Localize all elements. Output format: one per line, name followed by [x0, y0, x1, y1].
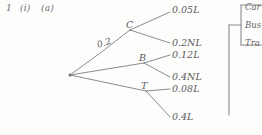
- edge-root-to-B: [70, 63, 144, 75]
- menu-item-bus: Bus: [245, 20, 261, 30]
- menu-item-car: Car: [245, 2, 261, 12]
- leaf-label-1: 0.05L: [172, 4, 199, 15]
- edge-C-to-leaf-2: [130, 30, 170, 43]
- edge-root-to-C: [70, 30, 130, 75]
- edge-B-to-leaf-1: [144, 55, 170, 63]
- leaf-label-6: 0.4L: [172, 111, 193, 122]
- leaf-label-4: 0.4NL: [172, 71, 202, 82]
- tree-node-label-B: B: [139, 52, 146, 63]
- leaf-label-5: 0.08L: [172, 83, 199, 94]
- tree-node-label-C: C: [126, 19, 133, 30]
- menu-item-train: Tra: [245, 38, 260, 48]
- leaf-label-2: 0.2NL: [172, 37, 202, 48]
- tree-node-label-T: T: [141, 80, 147, 91]
- edge-C-to-leaf-1: [130, 12, 170, 30]
- handwritten-probability-tree-page: 1 (i) (a): [0, 0, 262, 135]
- edge-root-to-T: [70, 75, 146, 91]
- edge-B-to-leaf-2: [144, 63, 170, 77]
- leaf-label-3: 0.12L: [172, 49, 199, 60]
- edge-T-to-leaf-2: [146, 91, 170, 117]
- edge-T-to-leaf-1: [146, 89, 170, 91]
